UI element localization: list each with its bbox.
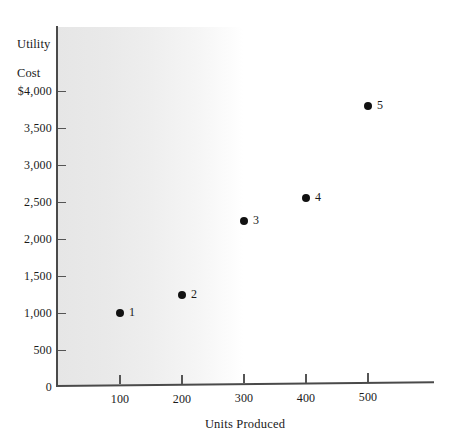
- y-axis-tick-label: 2,500: [0, 195, 52, 209]
- data-point-label: 3: [253, 213, 259, 228]
- y-axis-tick-label: 0: [0, 380, 52, 394]
- data-point-marker: [364, 102, 372, 110]
- y-axis-tick-label: 500: [0, 343, 52, 357]
- y-axis-tick-label: 1,500: [0, 269, 52, 283]
- y-axis-tick-label-text: 1,500: [0, 269, 52, 284]
- x-axis-tick-mark: [181, 375, 183, 384]
- data-point-marker: [178, 291, 186, 299]
- y-axis-title-line-1: Utility: [17, 37, 61, 52]
- y-axis-tick-mark: [58, 239, 66, 241]
- y-axis-tick-label: 3,000: [0, 158, 52, 172]
- y-axis-tick-label: 1,000: [0, 306, 52, 320]
- y-axis-tick-mark: [58, 202, 66, 204]
- data-point-label: 4: [315, 190, 321, 205]
- data-point-label: 5: [377, 98, 383, 113]
- y-axis-tick-mark: [58, 313, 66, 315]
- y-axis-tick-label-text: $4,000: [0, 84, 52, 99]
- y-axis-tick-mark: [58, 128, 66, 130]
- y-axis-tick-label: $4,000: [0, 84, 52, 98]
- x-axis-tick-mark: [367, 373, 369, 382]
- y-axis-tick-label: 2,000: [0, 232, 52, 246]
- y-axis-tick-mark: [58, 91, 66, 93]
- y-axis-tick-label-text: 3,500: [0, 121, 52, 136]
- y-axis-tick-mark: [58, 350, 66, 352]
- x-axis-tick-label: 500: [338, 390, 398, 405]
- y-axis-tick-label-text: 1,000: [0, 306, 52, 321]
- scatter-chart: Utility Cost Units Produced $4,0003,5003…: [0, 0, 453, 440]
- y-axis-tick-label-text: 2,500: [0, 195, 52, 210]
- x-axis-tick-label: 100: [90, 392, 150, 407]
- y-axis-title-line-2: Cost: [17, 66, 61, 81]
- y-axis-tick-label: 3,500: [0, 121, 52, 135]
- x-axis-tick-label: 400: [276, 391, 336, 406]
- y-axis-tick-mark: [58, 276, 66, 278]
- x-axis-tick-mark: [243, 374, 245, 383]
- y-axis-tick-mark: [58, 165, 66, 167]
- data-point-marker: [116, 309, 124, 317]
- x-axis-tick-mark: [305, 374, 307, 383]
- y-axis-tick-label-text: 0: [0, 380, 52, 395]
- x-axis-tick-label: 200: [152, 392, 212, 407]
- plot-area-shading: [58, 27, 243, 385]
- data-point-label: 2: [191, 287, 197, 302]
- y-axis-tick-label-text: 3,000: [0, 158, 52, 173]
- data-point-marker: [240, 217, 248, 225]
- y-axis-tick-label-text: 500: [0, 343, 52, 358]
- x-axis-tick-mark: [119, 375, 121, 384]
- x-axis-tick-label: 300: [214, 391, 274, 406]
- data-point-marker: [302, 194, 310, 202]
- y-axis-tick-label-text: 2,000: [0, 232, 52, 247]
- x-axis-title: Units Produced: [165, 417, 325, 432]
- data-point-label: 1: [129, 305, 135, 320]
